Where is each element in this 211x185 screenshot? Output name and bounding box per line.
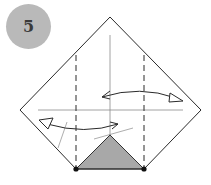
- origami-diagram: [0, 0, 211, 185]
- lower-fold-unfold-arrow: [39, 118, 118, 130]
- upper-fold-unfold-arrow: [102, 91, 183, 102]
- short-crease-center: [94, 128, 133, 139]
- short-crease-left: [58, 122, 67, 148]
- fold-point-right: [141, 166, 146, 171]
- fold-point-left: [73, 166, 78, 171]
- shaded-bottom-triangle: [76, 135, 144, 169]
